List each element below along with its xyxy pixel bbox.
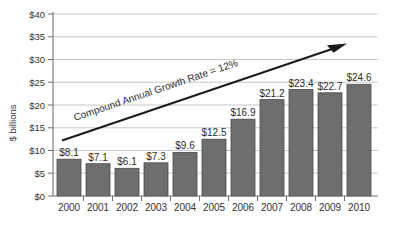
y-tick-label-20: $20 bbox=[29, 100, 45, 111]
bar-label-2003: $7.3 bbox=[146, 151, 166, 162]
x-tick-label-2010: 2010 bbox=[348, 202, 371, 213]
y-tick-label-15: $15 bbox=[29, 122, 45, 133]
bar-label-2001: $7.1 bbox=[88, 152, 108, 163]
bar-label-2005: $12.5 bbox=[201, 127, 226, 138]
bar-label-2000: $8.1 bbox=[59, 147, 79, 158]
bar-label-2006: $16.9 bbox=[230, 107, 255, 118]
x-tick-label-2003: 2003 bbox=[145, 202, 168, 213]
bar-chart-figure: $40 $35 $30 $25 $20 $15 $10 $5 $0 $ bill… bbox=[0, 0, 395, 228]
bar-2000 bbox=[57, 159, 81, 196]
y-tick-label-0: $0 bbox=[34, 191, 45, 202]
y-tick-label-10: $10 bbox=[29, 145, 45, 156]
bar-label-2009: $22.7 bbox=[317, 81, 342, 92]
x-tick-label-2006: 2006 bbox=[232, 202, 255, 213]
bar-2008 bbox=[289, 90, 313, 196]
bar-label-2008: $23.4 bbox=[288, 78, 313, 89]
bar-label-2004: $9.6 bbox=[175, 140, 195, 151]
bar-2002 bbox=[115, 168, 139, 196]
y-tick-label-25: $25 bbox=[29, 77, 45, 88]
bar-2003 bbox=[144, 163, 168, 196]
x-tick-label-2001: 2001 bbox=[87, 202, 110, 213]
x-tick-label-2009: 2009 bbox=[319, 202, 342, 213]
y-tick-label-40: $40 bbox=[29, 9, 45, 20]
chart-canvas: $40 $35 $30 $25 $20 $15 $10 $5 $0 $ bill… bbox=[0, 0, 395, 228]
y-tick-label-5: $5 bbox=[34, 168, 45, 179]
bar-2005 bbox=[202, 139, 226, 196]
x-tick-label-2008: 2008 bbox=[290, 202, 313, 213]
x-axis: 2000 2001 2002 2003 2004 2005 2006 2007 … bbox=[53, 196, 378, 213]
x-tick-label-2002: 2002 bbox=[116, 202, 139, 213]
x-tick-label-2005: 2005 bbox=[203, 202, 226, 213]
y-tick-label-30: $30 bbox=[29, 54, 45, 65]
y-tick-label-35: $35 bbox=[29, 31, 45, 42]
bar-2009 bbox=[318, 93, 342, 196]
bar-2007 bbox=[260, 100, 284, 196]
bar-label-2007: $21.2 bbox=[259, 88, 284, 99]
x-tick-label-2004: 2004 bbox=[174, 202, 197, 213]
bar-2006 bbox=[231, 119, 255, 196]
bar-label-2002: $6.1 bbox=[117, 156, 137, 167]
x-tick-label-2007: 2007 bbox=[261, 202, 284, 213]
bar-2004 bbox=[173, 152, 197, 196]
x-tick-label-2000: 2000 bbox=[58, 202, 81, 213]
y-axis-title: $ billions bbox=[7, 104, 18, 141]
bar-label-2010: $24.6 bbox=[346, 72, 371, 83]
bar-2001 bbox=[86, 164, 110, 196]
bar-2010 bbox=[347, 84, 371, 196]
y-axis: $40 $35 $30 $25 $20 $15 $10 $5 $0 $ bill… bbox=[7, 9, 53, 202]
cagr-arrow-head-icon bbox=[327, 44, 347, 53]
